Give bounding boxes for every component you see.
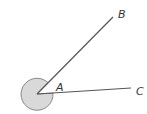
label-b: B (118, 8, 126, 21)
ray-ab (37, 17, 113, 94)
angle-diagram: A B C (0, 0, 147, 114)
ray-ac (37, 88, 131, 94)
label-a: A (55, 81, 64, 94)
label-c: C (136, 85, 144, 98)
